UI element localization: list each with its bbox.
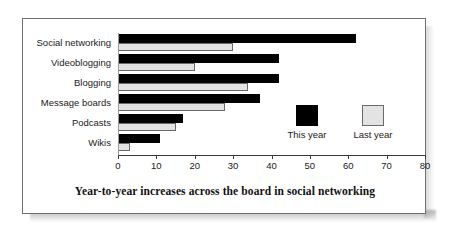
axis-tick	[233, 155, 234, 159]
bar-last-year	[118, 63, 195, 71]
axis-tick-label: 20	[180, 160, 210, 171]
legend-swatch-this-year	[296, 105, 318, 126]
legend-item-last-year: Last year	[344, 105, 402, 140]
category-label: Blogging	[23, 73, 115, 93]
bar-group	[118, 33, 425, 53]
bar-this-year	[118, 74, 279, 83]
bar-this-year	[118, 134, 160, 143]
axis-tick	[195, 155, 196, 159]
bar-last-year	[118, 143, 130, 151]
axis-tick	[156, 155, 157, 159]
plot-area: Social networkingVideobloggingBloggingMe…	[23, 19, 427, 215]
legend-item-this-year: This year	[278, 105, 336, 140]
legend-label-last-year: Last year	[344, 129, 402, 140]
category-label: Videoblogging	[23, 53, 115, 73]
bar-this-year	[118, 54, 279, 63]
bar-group	[118, 73, 425, 93]
axis-tick	[118, 155, 119, 159]
bar-this-year	[118, 34, 356, 43]
axis-tick	[387, 155, 388, 159]
axis-tick-label: 80	[410, 160, 440, 171]
category-label: Wikis	[23, 133, 115, 153]
bar-last-year	[118, 103, 225, 111]
chart-frame: Social networkingVideobloggingBloggingMe…	[22, 18, 426, 214]
axis-tick	[425, 155, 426, 159]
axis-tick-label: 70	[372, 160, 402, 171]
bar-this-year	[118, 114, 183, 123]
axis-tick	[348, 155, 349, 159]
legend: This year Last year	[278, 105, 403, 149]
axis-tick-label: 10	[141, 160, 171, 171]
axis-tick-label: 0	[103, 160, 133, 171]
category-axis-labels: Social networkingVideobloggingBloggingMe…	[23, 33, 115, 153]
bar-group	[118, 53, 425, 73]
category-label: Podcasts	[23, 113, 115, 133]
chart-caption: Year-to-year increases across the board …	[23, 185, 427, 197]
legend-swatch-last-year	[362, 105, 384, 126]
category-label: Social networking	[23, 33, 115, 53]
bar-last-year	[118, 83, 248, 91]
axis-tick	[272, 155, 273, 159]
axis-tick-label: 30	[218, 160, 248, 171]
value-axis-baseline	[118, 33, 119, 155]
bar-last-year	[118, 123, 176, 131]
figure-container: Social networkingVideobloggingBloggingMe…	[0, 0, 453, 236]
bar-last-year	[118, 43, 233, 51]
axis-tick-label: 50	[295, 160, 325, 171]
bar-this-year	[118, 94, 260, 103]
category-label: Message boards	[23, 93, 115, 113]
axis-tick-label: 40	[257, 160, 287, 171]
axis-tick-label: 60	[333, 160, 363, 171]
legend-label-this-year: This year	[278, 129, 336, 140]
axis-tick	[310, 155, 311, 159]
